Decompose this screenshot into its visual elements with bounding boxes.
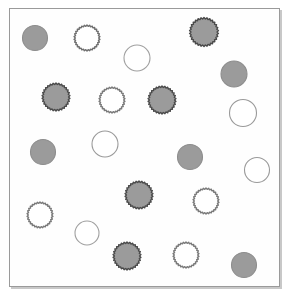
cell-6: [42, 83, 70, 111]
cell-4: [190, 18, 219, 47]
cell-5: [221, 61, 247, 87]
cell-15: [193, 188, 219, 214]
cell-10: [92, 131, 118, 157]
cell-9: [230, 100, 257, 127]
cell-7: [99, 87, 125, 113]
figure-root: [0, 0, 289, 296]
cell-14: [125, 181, 153, 209]
cell-19: [173, 242, 199, 268]
cell-12: [178, 145, 203, 170]
cell-17: [75, 221, 99, 245]
cell-2: [74, 25, 100, 51]
cell-1: [23, 26, 48, 51]
cell-11: [31, 140, 56, 165]
cell-13: [245, 158, 270, 183]
cell-16: [27, 202, 53, 228]
cell-18: [113, 242, 141, 270]
cell-3: [124, 45, 150, 71]
cell-8: [148, 86, 176, 114]
cell-20: [232, 253, 257, 278]
